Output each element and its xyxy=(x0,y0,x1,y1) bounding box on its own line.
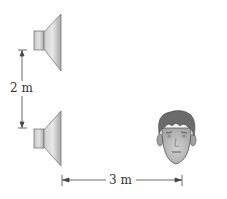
diagram-canvas xyxy=(0,0,227,199)
vertical-dimension-label: 2 m xyxy=(8,81,35,95)
speaker-bottom-icon xyxy=(34,111,61,166)
horizontal-dimension-label: 3 m xyxy=(107,173,134,187)
speaker-top-icon xyxy=(34,14,61,71)
listener-face-icon xyxy=(157,111,196,164)
